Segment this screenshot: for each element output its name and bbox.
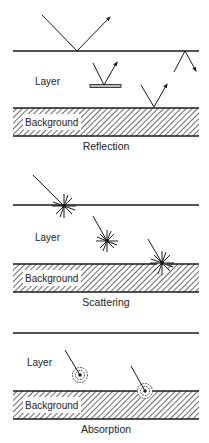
background-label: Background: [25, 117, 78, 128]
scattering-panel: Layer Background Scattering: [13, 175, 199, 308]
diagram-canvas: Layer Background Reflection: [0, 0, 209, 443]
absorption-panel: Layer Background Absorption: [13, 333, 199, 435]
reflection-panel: Layer Background Reflection: [13, 15, 199, 152]
internal-reflection-ray: [174, 51, 196, 72]
scatter-burst-particle: [93, 216, 118, 252]
particle-reflection-ray: [93, 62, 117, 85]
background-label: Background: [25, 273, 78, 284]
background-label: Background: [25, 400, 78, 411]
panel-caption: Reflection: [83, 140, 130, 152]
layer-label: Layer: [35, 76, 61, 87]
layer-label: Layer: [27, 357, 53, 368]
surface-reflection-ray: [42, 15, 110, 51]
particle-flake: [90, 85, 121, 88]
panel-caption: Absorption: [81, 423, 131, 435]
layer-label: Layer: [35, 232, 61, 243]
absorption-particle: [65, 350, 88, 383]
background-reflection-ray: [141, 84, 167, 107]
panel-caption: Scattering: [82, 296, 129, 308]
scatter-burst-surface: [33, 175, 76, 218]
